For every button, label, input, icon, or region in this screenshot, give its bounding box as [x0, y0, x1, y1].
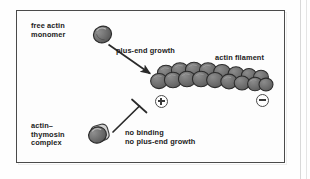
label-no-binding: no binding no plus-end growth	[125, 129, 195, 146]
label-actin-thymosin-complex: actin– thymosin complex	[31, 122, 65, 148]
actin-thymosin-complex-icon	[86, 123, 110, 146]
label-plus-end-growth: plus-end growth	[116, 47, 175, 56]
actin-filament-subunits	[151, 62, 273, 91]
minus-end-sign	[256, 94, 269, 107]
actin-monomer-icon	[91, 23, 114, 45]
plus-end-sign	[155, 95, 168, 108]
figure-canvas: free actin monomer plus-end growth actin…	[0, 0, 310, 179]
label-actin-filament: actin filament	[215, 54, 264, 63]
label-free-actin-monomer: free actin monomer	[31, 22, 65, 39]
